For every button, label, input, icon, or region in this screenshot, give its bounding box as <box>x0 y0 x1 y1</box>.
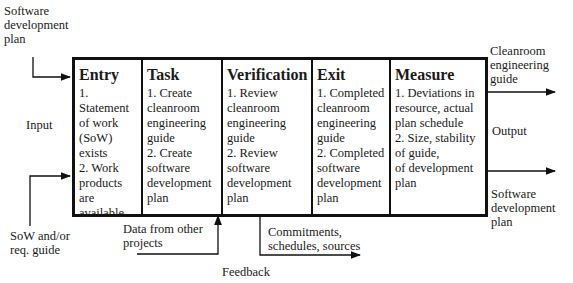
stage-item: 2. Review software development plan <box>227 146 311 206</box>
stage-verification: Verification 1. Review cleanroom enginee… <box>223 60 313 214</box>
bottom-output-label: Software development plan <box>491 187 556 229</box>
stage-title: Measure <box>395 66 485 84</box>
stage-item: 2. Work products are available <box>79 161 141 221</box>
stage-item: 1. Deviations in resource, actual plan s… <box>395 86 485 131</box>
feedback-label: Feedback <box>222 265 270 279</box>
top-input-label: Software development plan <box>4 4 69 46</box>
stage-title: Task <box>147 66 221 84</box>
data-from-other-projects-label: Data from other projects <box>123 222 203 250</box>
bottom-input-label: SoW and/or req. guide <box>10 229 70 257</box>
stage-item: 2. Size, stability of guide, of developm… <box>395 131 485 191</box>
stage-item: 2. Completed software development plan <box>317 146 389 206</box>
stage-title: Entry <box>79 66 141 84</box>
stage-item: 1. Review cleanroom engineering guide <box>227 86 311 146</box>
process-box: Entry 1. Statement of work (SoW) exists … <box>72 57 488 217</box>
stage-entry: Entry 1. Statement of work (SoW) exists … <box>75 60 143 214</box>
stage-item: 2. Create software development plan <box>147 146 221 206</box>
stage-title: Exit <box>317 66 389 84</box>
input-label: Input <box>26 118 52 132</box>
stage-item: 1. Statement of work (SoW) exists <box>79 86 141 161</box>
stage-measure: Measure 1. Deviations in resource, actua… <box>391 60 485 214</box>
output-label: Output <box>492 124 527 138</box>
stage-item: 1. Completed cleanroom engineering guide <box>317 86 389 146</box>
stage-title: Verification <box>227 66 311 84</box>
top-output-label: Cleanroom engineering guide <box>490 44 549 86</box>
stage-exit: Exit 1. Completed cleanroom engineering … <box>313 60 391 214</box>
commitments-label: Commitments, schedules, sources <box>268 225 360 253</box>
stage-task: Task 1. Create cleanroom engineering gui… <box>143 60 223 214</box>
stage-item: 1. Create cleanroom engineering guide <box>147 86 221 146</box>
